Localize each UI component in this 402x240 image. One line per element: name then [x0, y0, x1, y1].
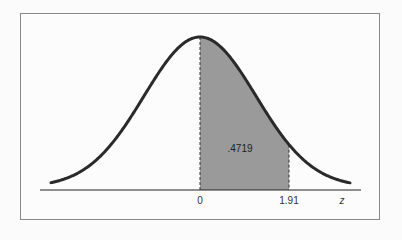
shaded-area	[200, 37, 289, 190]
tick-label-1-91: 1.91	[279, 195, 298, 206]
area-value-label: .4719	[227, 143, 252, 154]
tick-label-0: 0	[197, 195, 203, 206]
axis-label-z: z	[340, 195, 345, 206]
